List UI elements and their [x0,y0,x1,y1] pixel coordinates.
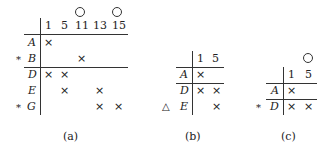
row-label: A [180,69,188,80]
column-header: 1 [288,69,295,80]
column-header: 15 [112,20,126,31]
cross-mark: × [44,37,53,48]
column-header: 11 [75,20,89,31]
row-label: D [270,101,279,112]
caption: (c) [281,130,296,143]
triangle-marker: △ [162,101,170,112]
row-label: D [28,69,37,80]
caption: (a) [63,130,78,143]
star-marker: * [256,102,261,113]
row-label: D [180,85,189,96]
cross-mark: × [95,101,104,112]
cross-mark: × [304,101,313,112]
cross-mark: × [44,69,53,80]
column-header: 5 [305,69,312,80]
column-header: 5 [61,20,68,31]
row-label: E [28,85,36,96]
column-header: 1 [197,53,204,64]
circle-icon [112,7,122,17]
cross-mark: × [95,85,104,96]
row-divider [24,67,128,68]
row-label: A [271,85,279,96]
row-label: A [28,37,36,48]
row-label: B [28,53,36,64]
caption: (b) [185,130,201,143]
row-label: G [27,101,36,112]
cross-mark: × [114,101,123,112]
cross-mark: × [60,69,69,80]
cross-mark: × [212,85,221,96]
circle-icon [75,7,85,17]
cross-mark: × [287,85,296,96]
cross-mark: × [287,101,296,112]
column-header: 5 [212,53,219,64]
column-divider [283,67,284,115]
star-marker: * [16,54,21,65]
cross-mark: × [196,69,205,80]
cross-mark: × [60,85,69,96]
row-label: E [180,101,188,112]
star-marker: * [16,102,21,113]
row-divider [24,34,128,35]
cross-mark: × [212,101,221,112]
column-header: 13 [93,20,107,31]
column-header: 1 [45,20,52,31]
circle-icon [303,53,313,63]
cross-mark: × [196,85,205,96]
cross-mark: × [77,53,86,64]
